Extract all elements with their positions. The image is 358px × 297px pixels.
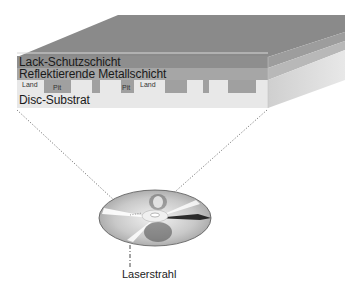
label-laser-beam: Laserstrahl — [122, 268, 176, 280]
label-substrate-layer: Disc-Substrat — [19, 93, 90, 107]
diagram-graphic — [0, 0, 358, 297]
cd-structure-diagram: Lack-Schutzschicht Reflektierende Metall… — [0, 0, 358, 297]
label-metal-layer: Reflektierende Metallschicht — [19, 67, 166, 81]
label-pit-1: Pit — [53, 84, 61, 91]
label-land-2: Land — [140, 81, 156, 88]
label-land-1: Land — [22, 81, 38, 88]
label-pit-2: Pit — [122, 84, 130, 91]
disc — [99, 190, 211, 246]
